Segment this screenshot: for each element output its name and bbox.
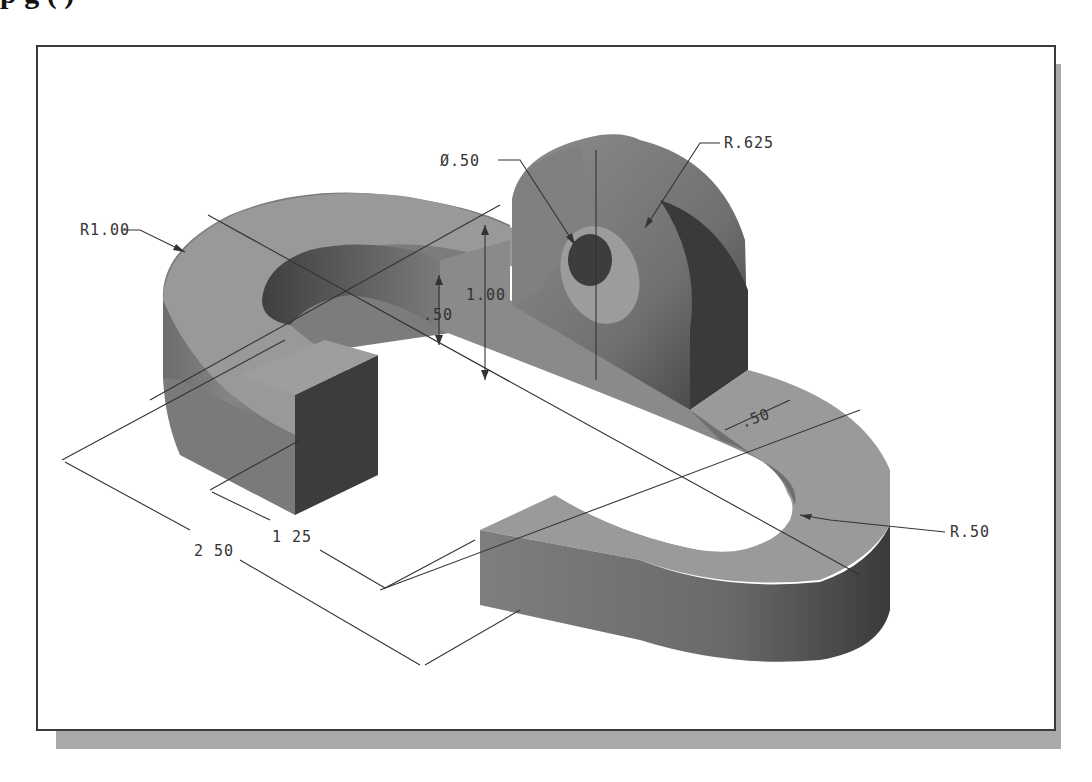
dim-r-50: R.50 (950, 523, 990, 541)
dim-r-1-00: R1.00 (80, 221, 130, 239)
dim-r-625: R.625 (724, 134, 774, 152)
isometric-drawing: R1.00 Ø.50 R.625 1.00 .50 .50 R.50 1 25 … (0, 0, 1092, 782)
dim-length-2-50: 2 50 (194, 542, 234, 560)
dim-length-1-25: 1 25 (272, 528, 312, 546)
dim-diameter-50: Ø.50 (440, 152, 480, 170)
dim-height-50: .50 (423, 306, 453, 324)
dim-height-1-00: 1.00 (466, 286, 506, 304)
